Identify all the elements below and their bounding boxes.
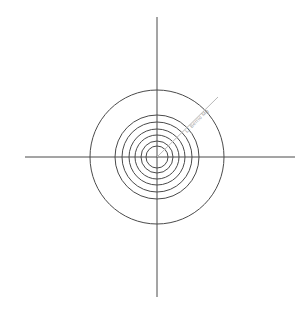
background — [0, 0, 307, 311]
diagram-canvas: Lt Berrio Mg — [0, 0, 307, 311]
concentric-circles-diagram: Lt Berrio Mg — [0, 0, 307, 311]
